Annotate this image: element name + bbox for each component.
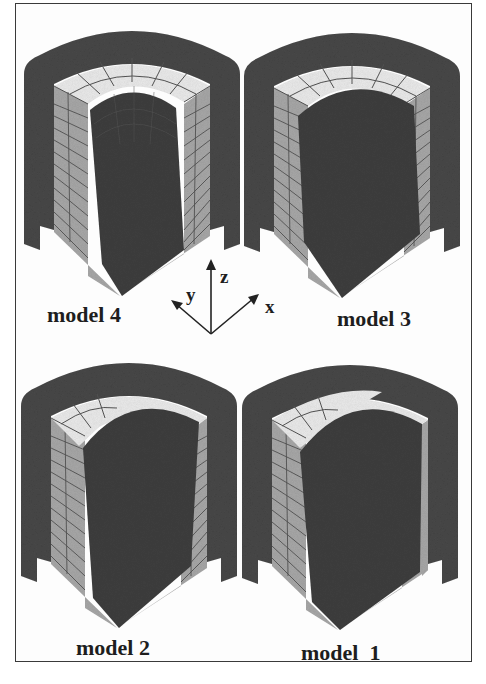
axis-x-label: x	[265, 296, 275, 318]
model-1-diagram	[242, 365, 458, 630]
figure-canvas	[0, 0, 486, 684]
coordinate-axes	[171, 259, 259, 334]
model-2-diagram	[21, 363, 237, 628]
model-4-diagram	[24, 31, 240, 296]
axis-y-label: y	[186, 284, 196, 306]
model-3-diagram	[244, 33, 460, 298]
model-4-label: model 4	[47, 302, 121, 328]
model-2-label: model 2	[76, 635, 150, 661]
model-3-label: model 3	[337, 306, 411, 332]
axis-z-label: z	[220, 266, 228, 288]
model-1-label: model 1	[301, 640, 380, 666]
